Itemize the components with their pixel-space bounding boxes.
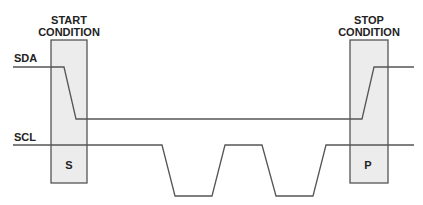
sda-label: SDA [14, 52, 37, 64]
stop-condition-title-line2: CONDITION [338, 26, 400, 38]
start-condition-title-line1: START [51, 14, 87, 26]
start-condition-title-line2: CONDITION [38, 26, 100, 38]
stop-condition-region: STOP CONDITION P [338, 14, 400, 183]
start-marker-s: S [65, 159, 72, 171]
scl-label: SCL [14, 131, 36, 143]
start-condition-region: START CONDITION S [38, 14, 100, 183]
i2c-timing-diagram: START CONDITION S STOP CONDITION P SDA S… [0, 0, 423, 205]
stop-condition-title-line1: STOP [354, 14, 384, 26]
stop-marker-p: P [364, 159, 371, 171]
